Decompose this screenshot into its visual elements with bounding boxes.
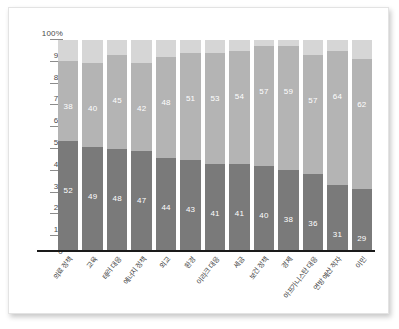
bar-stack: 65143 [180, 40, 200, 250]
bar-column[interactable]: 65143 [178, 40, 202, 250]
bar-value-label: 53 [205, 95, 225, 103]
bar-stack: 35740 [254, 40, 274, 250]
x-axis-label-slot: 에너지 정책 [129, 254, 153, 312]
bar-stack: 96229 [352, 40, 372, 250]
bar-segment-middle[interactable]: 38 [58, 61, 78, 141]
bar-stack: 56431 [327, 40, 347, 250]
bar-column[interactable]: 114247 [129, 40, 153, 250]
x-axis-label-slot: 이라크 대응 [203, 254, 227, 312]
bar-value-label: 41 [205, 210, 225, 218]
bar-column[interactable]: 35740 [252, 40, 276, 250]
bar-segment-bottom[interactable]: 41 [205, 164, 225, 250]
x-axis-category-label: 세금 [232, 256, 246, 270]
bar-segment-top[interactable]: 5 [327, 40, 347, 51]
bar-value-label: 64 [327, 93, 347, 101]
bar-column[interactable]: 74548 [105, 40, 129, 250]
bar-value-label: 51 [180, 95, 200, 103]
bar-segment-bottom[interactable]: 49 [82, 147, 102, 250]
bar-column[interactable]: 55441 [227, 40, 251, 250]
bar-segment-middle[interactable]: 54 [229, 51, 249, 164]
bar-column[interactable]: 103852 [56, 40, 80, 250]
bar-segment-top[interactable]: 6 [205, 40, 225, 53]
bar-value-label: 47 [131, 197, 151, 205]
bar-value-label: 42 [131, 105, 151, 113]
bar-value-label: 41 [229, 210, 249, 218]
bar-segment-bottom[interactable]: 36 [303, 174, 323, 250]
bar-stack: 65341 [205, 40, 225, 250]
bar-value-label: 49 [82, 193, 102, 201]
x-axis-label-slot: 이민 [350, 254, 374, 312]
x-axis-category-label: 교육 [85, 256, 99, 270]
bar-column[interactable]: 65341 [203, 40, 227, 250]
bar-column[interactable]: 56431 [325, 40, 349, 250]
bar-segment-top[interactable]: 7 [107, 40, 127, 55]
x-axis-category-label: 보건 정책 [248, 256, 270, 281]
bar-segment-middle[interactable]: 53 [205, 53, 225, 164]
x-axis-label-slot: 보건 정책 [252, 254, 276, 312]
bar-value-label: 48 [156, 99, 176, 107]
x-axis-label-slot: 세금 [227, 254, 251, 312]
x-axis-baseline [37, 250, 375, 252]
bar-value-label: 29 [352, 235, 372, 243]
bar-segment-middle[interactable]: 45 [107, 55, 127, 150]
bar-stack: 55441 [229, 40, 249, 250]
bar-value-label: 57 [303, 97, 323, 105]
bar-column[interactable]: 96229 [350, 40, 374, 250]
y-axis-tick: 100% [27, 30, 63, 40]
bar-column[interactable]: 35938 [276, 40, 300, 250]
bar-segment-middle[interactable]: 59 [278, 46, 298, 170]
bar-segment-top[interactable]: 5 [229, 40, 249, 51]
bar-segment-bottom[interactable]: 41 [229, 164, 249, 250]
x-axis-category-label: 경제 [281, 256, 295, 270]
chart-card: 100%9080706050403020100 1038521140497454… [8, 7, 389, 314]
bar-segment-middle[interactable]: 42 [131, 63, 151, 151]
bar-segment-middle[interactable]: 51 [180, 53, 200, 160]
x-axis-label-slot: 의료 정책 [56, 254, 80, 312]
x-axis-category-label: 의료 정책 [52, 256, 74, 281]
bar-value-label: 48 [107, 195, 127, 203]
bar-column[interactable]: 114049 [80, 40, 104, 250]
bar-segment-bottom[interactable]: 43 [180, 160, 200, 250]
bar-value-label: 59 [278, 88, 298, 96]
bar-stack: 74548 [107, 40, 127, 250]
bar-value-label: 62 [352, 101, 372, 109]
bar-segment-middle[interactable]: 40 [82, 63, 102, 147]
bar-segment-top[interactable]: 7 [303, 40, 323, 55]
bar-segment-top[interactable]: 11 [82, 40, 102, 63]
bar-segment-bottom[interactable]: 48 [107, 149, 127, 250]
bar-segment-top[interactable]: 8 [156, 40, 176, 57]
bar-segment-middle[interactable]: 62 [352, 59, 372, 189]
bar-segment-bottom[interactable]: 47 [131, 151, 151, 250]
bar-segment-top[interactable]: 10 [58, 40, 78, 61]
bar-value-label: 44 [156, 204, 176, 212]
bar-segment-bottom[interactable]: 29 [352, 189, 372, 250]
bar-segment-top[interactable]: 6 [180, 40, 200, 53]
bar-segment-top[interactable]: 11 [131, 40, 151, 63]
bar-stack: 35938 [278, 40, 298, 250]
bar-column[interactable]: 75736 [301, 40, 325, 250]
x-axis-category-label: 이민 [354, 256, 368, 270]
x-axis-category-label: 환경 [183, 256, 197, 270]
bar-segment-top[interactable]: 9 [352, 40, 372, 59]
bar-value-label: 36 [303, 220, 323, 228]
x-axis-label-slot: 외교 [154, 254, 178, 312]
bar-segment-bottom[interactable]: 52 [58, 141, 78, 250]
bar-segment-bottom[interactable]: 40 [254, 166, 274, 250]
bar-series-container: 1038521140497454811424784844651436534155… [56, 40, 374, 250]
x-axis-category-label: 외교 [159, 256, 173, 270]
bar-segment-bottom[interactable]: 44 [156, 158, 176, 250]
bar-column[interactable]: 84844 [154, 40, 178, 250]
bar-value-label: 40 [82, 105, 102, 113]
bar-segment-bottom[interactable]: 38 [278, 170, 298, 250]
bar-value-label: 43 [180, 206, 200, 214]
bar-segment-middle[interactable]: 64 [327, 51, 347, 185]
bar-segment-middle[interactable]: 57 [254, 46, 274, 166]
bar-value-label: 45 [107, 97, 127, 105]
bar-segment-middle[interactable]: 57 [303, 55, 323, 175]
bar-segment-bottom[interactable]: 31 [327, 185, 347, 250]
bar-stack: 103852 [58, 40, 78, 250]
bar-segment-middle[interactable]: 48 [156, 57, 176, 158]
bar-value-label: 31 [327, 231, 347, 239]
bar-value-label: 52 [58, 187, 78, 195]
bar-value-label: 54 [229, 93, 249, 101]
